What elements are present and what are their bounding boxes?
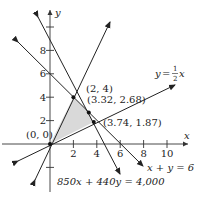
x-axis-label: x (184, 130, 190, 141)
point-label-2-4: (2, 4) (86, 83, 113, 94)
label-850x-440y-4000: 850x + 440y = 4,000 (57, 176, 165, 187)
point-label-origin: (0, 0) (26, 129, 53, 140)
label-x-plus-y-6: x + y = 6 (147, 162, 195, 173)
frac-den: 2 (173, 75, 177, 83)
x-tick-label: 6 (117, 148, 123, 159)
label-y-half-x: y = 1 2 x (154, 65, 185, 83)
vertex-3.74-1.87 (92, 120, 96, 124)
y-tick-label: 8 (40, 45, 46, 56)
x-tick-label: 4 (94, 148, 100, 159)
vertex-2-4 (71, 95, 75, 99)
x-axis (2, 140, 188, 148)
y-axis (46, 10, 54, 192)
frac-num: 1 (173, 65, 177, 73)
eq-sign: = (162, 68, 170, 79)
y-axis-label: y (54, 7, 61, 18)
x-tick-label: 10 (161, 148, 174, 159)
y-tick-label: 2 (40, 115, 46, 126)
eq-var: x (179, 68, 185, 79)
y-tick-label: 4 (40, 92, 46, 103)
lp-diagram: 2 4 6 8 10 2 4 6 8 x y (0, 0) (2, 4) (3.… (0, 0, 203, 200)
vertex-origin (48, 142, 52, 146)
vertex-3.32-2.68 (87, 111, 91, 115)
x-tick-label: 2 (70, 148, 76, 159)
y-tick-label: 6 (40, 68, 46, 79)
x-tick-label: 8 (140, 148, 146, 159)
point-label-3.32-2.68: (3.32, 2.68) (87, 94, 146, 105)
eq-lhs: y (154, 68, 161, 79)
point-label-3.74-1.87: (3.74, 1.87) (103, 117, 162, 128)
